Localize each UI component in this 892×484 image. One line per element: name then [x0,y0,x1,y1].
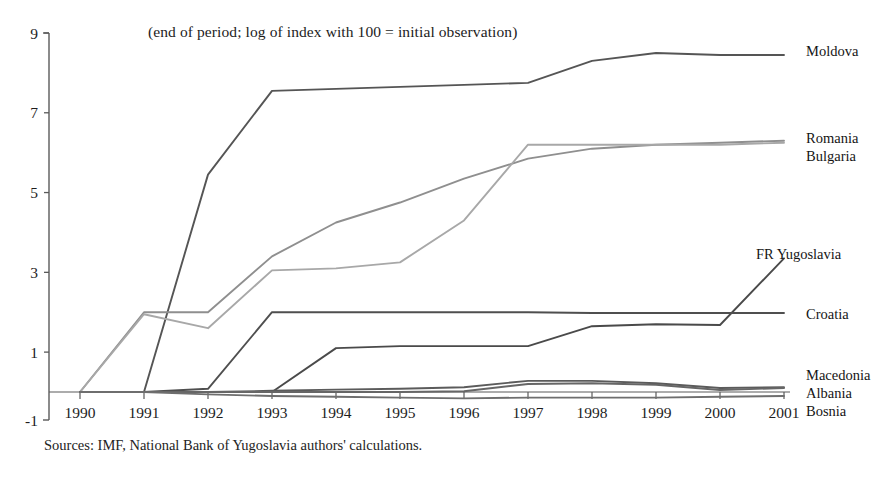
x-axis-tick-label: 1990 [65,404,96,421]
series-label-croatia: Croatia [806,306,849,323]
y-axis-tick-label: 7 [30,104,38,121]
series-label-albania: Albania [806,385,852,402]
series-label-bosnia: Bosnia [806,403,846,420]
y-axis-tick-label: 1 [30,344,38,361]
line-chart-plot: 97531-1199019911992199319941995199619971… [0,0,892,484]
x-axis-tick-label: 1992 [193,404,224,421]
x-axis-tick-label: 2001 [769,404,800,421]
x-axis-tick-label: 1998 [577,404,608,421]
x-axis-tick-label: 2000 [705,404,736,421]
x-axis-tick-label: 1994 [321,404,352,421]
chart-page: (end of period; log of index with 100 = … [0,0,892,484]
y-axis-tick-label: 5 [30,184,38,201]
series-label-macedonia: Macedonia [806,367,870,384]
series-line-romania [80,141,784,392]
series-line-fr-yugoslavia [80,258,784,392]
x-axis-tick-label: 1991 [129,404,160,421]
series-line-bosnia [80,392,784,398]
x-axis-tick-label: 1993 [257,404,288,421]
y-axis-tick-label: -1 [25,412,38,429]
y-axis-tick-label: 9 [30,25,38,42]
series-label-bulgaria: Bulgaria [806,148,856,165]
series-line-moldova [80,53,784,392]
y-axis-tick-label: 3 [30,264,38,281]
series-label-fr-yugoslavia: FR Yugoslavia [756,246,841,263]
x-axis-tick-label: 1997 [513,404,544,421]
series-label-moldova: Moldova [806,43,858,60]
source-note: Sources: IMF, National Bank of Yugoslavi… [44,437,422,454]
x-axis-tick-label: 1996 [449,404,480,421]
series-line-bulgaria [80,143,784,392]
series-label-romania: Romania [806,130,858,147]
x-axis-tick-label: 1999 [641,404,672,421]
x-axis-tick-label: 1995 [385,404,416,421]
